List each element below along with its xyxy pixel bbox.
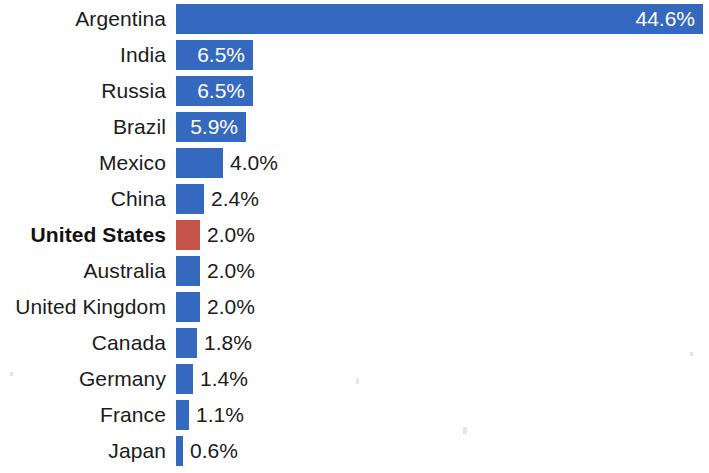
category-label: Brazil (113, 112, 166, 142)
bar-value-label: 5.9% (190, 112, 238, 142)
category-label: Mexico (99, 148, 166, 178)
bar-value-label: 1.4% (200, 364, 248, 394)
bar-row: Germany1.4% (0, 364, 709, 394)
bar (176, 436, 183, 466)
bar-value-label: 2.0% (207, 256, 255, 286)
bar (176, 328, 197, 358)
bar-row: Mexico4.0% (0, 148, 709, 178)
category-label: France (100, 400, 166, 430)
bar-value-label: 2.0% (207, 292, 255, 322)
category-label: Germany (79, 364, 166, 394)
bar-value-label: 1.8% (204, 328, 252, 358)
bar-value-label: 4.0% (230, 148, 278, 178)
bar-row: Canada1.8% (0, 328, 709, 358)
bar-row: India6.5% (0, 40, 709, 70)
bar-row: United Kingdom2.0% (0, 292, 709, 322)
bar (176, 400, 189, 430)
bar-value-label: 44.6% (635, 4, 695, 34)
bar-value-label: 6.5% (197, 40, 245, 70)
bar (176, 184, 204, 214)
bar-value-label: 2.0% (207, 220, 255, 250)
bar (176, 292, 200, 322)
bar (176, 364, 193, 394)
bar-row: Japan0.6% (0, 436, 709, 466)
bar (176, 220, 200, 250)
category-label: Japan (108, 436, 166, 466)
category-label: United States (31, 220, 167, 250)
bar-row: Brazil5.9% (0, 112, 709, 142)
bar-value-label: 1.1% (196, 400, 244, 430)
bar-value-label: 2.4% (211, 184, 259, 214)
bar-row: Argentina44.6% (0, 4, 709, 34)
bar (176, 4, 703, 34)
bar (176, 148, 223, 178)
bar (176, 256, 200, 286)
bar-row: China2.4% (0, 184, 709, 214)
bar-row: Australia2.0% (0, 256, 709, 286)
category-label: Australia (83, 256, 166, 286)
category-label: Canada (92, 328, 166, 358)
category-label: Argentina (75, 4, 166, 34)
bar-value-label: 0.6% (190, 436, 238, 466)
bar-row: United States2.0% (0, 220, 709, 250)
bar-value-label: 6.5% (197, 76, 245, 106)
category-label: China (111, 184, 166, 214)
bar-row: France1.1% (0, 400, 709, 430)
category-label: United Kingdom (15, 292, 166, 322)
category-label: Russia (101, 76, 166, 106)
bar-row: Russia6.5% (0, 76, 709, 106)
horizontal-bar-chart: Argentina44.6%India6.5%Russia6.5%Brazil5… (0, 0, 709, 473)
category-label: India (120, 40, 166, 70)
